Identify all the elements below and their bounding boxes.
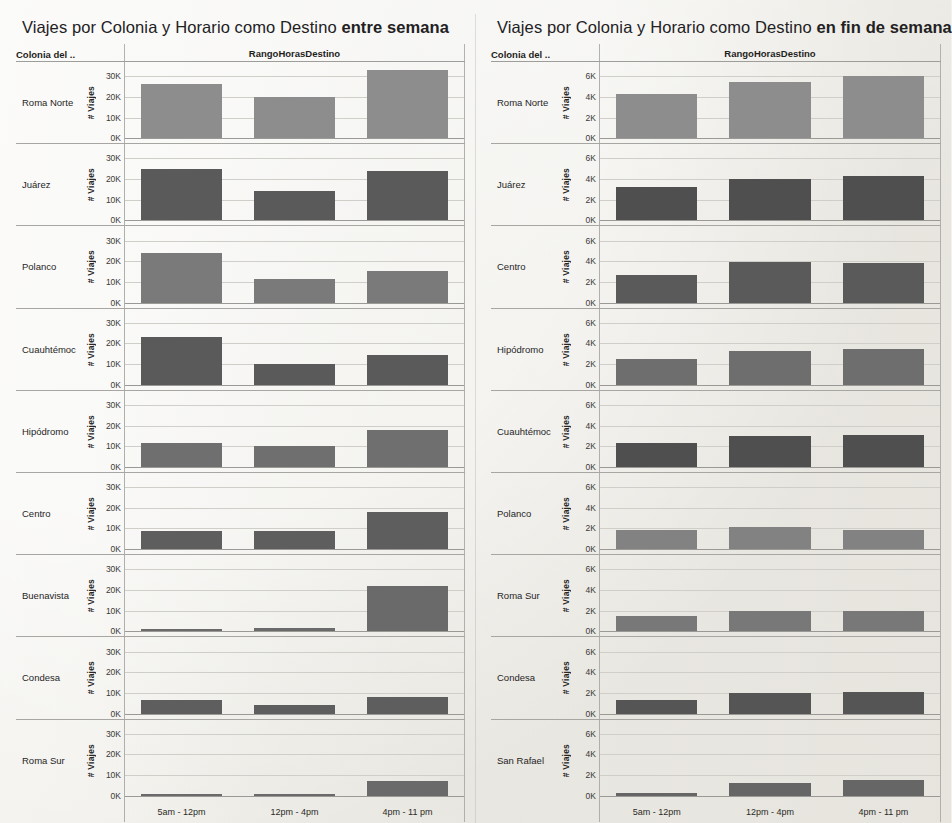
- row-label-colonia[interactable]: San Rafael: [491, 720, 559, 802]
- bar[interactable]: [367, 171, 448, 221]
- bar[interactable]: [616, 94, 698, 138]
- chart-row[interactable]: Condesa# Viajes6K4K2K0K: [491, 637, 941, 719]
- bar[interactable]: [141, 443, 222, 467]
- chart-row[interactable]: Cuauhtémoc# Viajes6K4K2K0K: [491, 391, 941, 473]
- bar[interactable]: [141, 700, 222, 713]
- bar[interactable]: [254, 364, 335, 385]
- bar[interactable]: [616, 793, 698, 796]
- bar[interactable]: [729, 693, 811, 714]
- bar[interactable]: [729, 179, 811, 220]
- bar[interactable]: [616, 187, 698, 220]
- bar[interactable]: [843, 780, 925, 796]
- bar[interactable]: [729, 351, 811, 385]
- bar[interactable]: [843, 435, 925, 467]
- row-label-colonia[interactable]: Roma Norte: [16, 62, 84, 143]
- x-axis-tick-label[interactable]: 4pm - 11 pm: [827, 807, 940, 817]
- bar[interactable]: [843, 76, 925, 138]
- chart-row[interactable]: Centro# Viajes6K4K2K0K: [491, 226, 941, 308]
- bar[interactable]: [367, 697, 448, 714]
- bar[interactable]: [367, 70, 448, 138]
- chart-row[interactable]: Juárez# Viajes6K4K2K0K: [491, 144, 941, 226]
- bar[interactable]: [141, 253, 222, 303]
- bar[interactable]: [141, 629, 222, 631]
- bar[interactable]: [843, 530, 925, 550]
- row-label-colonia[interactable]: Centro: [491, 226, 559, 307]
- row-label-colonia[interactable]: Condesa: [491, 637, 559, 718]
- bar[interactable]: [616, 530, 698, 550]
- bar[interactable]: [616, 700, 698, 713]
- bar[interactable]: [367, 586, 448, 631]
- bar[interactable]: [367, 430, 448, 467]
- row-label-colonia[interactable]: Hipódromo: [491, 309, 559, 390]
- bar[interactable]: [729, 527, 811, 549]
- x-axis-tick-label[interactable]: 5am - 12pm: [600, 807, 713, 817]
- bar[interactable]: [843, 349, 925, 385]
- bar[interactable]: [141, 531, 222, 550]
- bar[interactable]: [367, 355, 448, 385]
- bar[interactable]: [616, 616, 698, 632]
- chart-row[interactable]: Condesa# Viajes30K20K10K0K: [16, 637, 465, 719]
- chart-row[interactable]: Hipódromo# Viajes6K4K2K0K: [491, 309, 941, 391]
- bar[interactable]: [367, 781, 448, 795]
- bar[interactable]: [843, 692, 925, 714]
- bar[interactable]: [254, 628, 335, 631]
- row-label-colonia[interactable]: Roma Sur: [16, 720, 84, 802]
- bar[interactable]: [367, 271, 448, 303]
- row-label-colonia[interactable]: Roma Sur: [491, 555, 559, 636]
- row-label-colonia[interactable]: Polanco: [491, 473, 559, 554]
- x-axis-tick-label[interactable]: 5am - 12pm: [125, 807, 238, 817]
- header-colonia-field[interactable]: Colonia del ..: [16, 49, 124, 61]
- header-colonia-field[interactable]: Colonia del ..: [491, 49, 599, 61]
- bar[interactable]: [254, 531, 335, 550]
- bar[interactable]: [141, 794, 222, 796]
- chart-row[interactable]: Roma Norte# Viajes30K20K10K0K: [16, 62, 465, 144]
- chart-row[interactable]: Polanco# Viajes30K20K10K0K: [16, 226, 465, 308]
- bar[interactable]: [729, 783, 811, 795]
- x-axis-tick-label[interactable]: 4pm - 11 pm: [351, 807, 464, 817]
- bar[interactable]: [843, 611, 925, 632]
- row-label-colonia[interactable]: Condesa: [16, 637, 84, 718]
- row-label-colonia[interactable]: Polanco: [16, 226, 84, 307]
- header-rango-horas-field[interactable]: RangoHorasDestino: [125, 48, 464, 61]
- bar[interactable]: [141, 337, 222, 385]
- chart-row[interactable]: San Rafael# Viajes6K4K2K0K: [491, 720, 941, 802]
- chart-row[interactable]: Roma Sur# Viajes30K20K10K0K: [16, 720, 465, 802]
- row-label-colonia[interactable]: Cuauhtémoc: [16, 309, 84, 390]
- bar[interactable]: [843, 176, 925, 220]
- chart-row[interactable]: Roma Sur# Viajes6K4K2K0K: [491, 555, 941, 637]
- chart-row[interactable]: Juárez# Viajes30K20K10K0K: [16, 144, 465, 226]
- row-label-colonia[interactable]: Hipódromo: [16, 391, 84, 472]
- row-label-colonia[interactable]: Centro: [16, 473, 84, 554]
- bar[interactable]: [254, 705, 335, 713]
- bar[interactable]: [729, 611, 811, 632]
- chart-row[interactable]: Centro# Viajes30K20K10K0K: [16, 473, 465, 555]
- row-label-colonia[interactable]: Juárez: [16, 144, 84, 225]
- bar[interactable]: [254, 794, 335, 796]
- chart-row[interactable]: Cuauhtémoc# Viajes30K20K10K0K: [16, 309, 465, 391]
- chart-row[interactable]: Roma Norte# Viajes6K4K2K0K: [491, 62, 941, 144]
- bar[interactable]: [141, 84, 222, 138]
- row-label-colonia[interactable]: Juárez: [491, 144, 559, 225]
- bar[interactable]: [616, 443, 698, 467]
- row-label-colonia[interactable]: Buenavista: [16, 555, 84, 636]
- header-rango-horas-field[interactable]: RangoHorasDestino: [600, 48, 940, 61]
- bar[interactable]: [729, 82, 811, 138]
- bar[interactable]: [141, 169, 222, 221]
- chart-row[interactable]: Buenavista# Viajes30K20K10K0K: [16, 555, 465, 637]
- bar[interactable]: [367, 512, 448, 549]
- row-label-colonia[interactable]: Cuauhtémoc: [491, 391, 559, 472]
- bar[interactable]: [254, 279, 335, 303]
- bar[interactable]: [254, 97, 335, 138]
- bar[interactable]: [729, 262, 811, 302]
- chart-row[interactable]: Hipódromo# Viajes30K20K10K0K: [16, 391, 465, 473]
- bar[interactable]: [729, 436, 811, 467]
- bar[interactable]: [254, 191, 335, 220]
- bar[interactable]: [616, 359, 698, 385]
- x-axis-tick-label[interactable]: 12pm - 4pm: [238, 807, 351, 817]
- x-axis-tick-label[interactable]: 12pm - 4pm: [713, 807, 826, 817]
- bar[interactable]: [843, 263, 925, 302]
- chart-row[interactable]: Polanco# Viajes6K4K2K0K: [491, 473, 941, 555]
- bar[interactable]: [616, 275, 698, 303]
- bar[interactable]: [254, 446, 335, 467]
- row-label-colonia[interactable]: Roma Norte: [491, 62, 559, 143]
